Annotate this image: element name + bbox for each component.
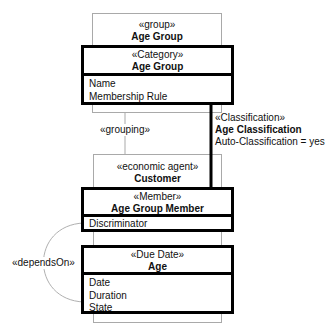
due-date-box[interactable]: «Due Date» Age Date Duration State bbox=[81, 245, 234, 314]
due-date-attributes: Date Duration State bbox=[89, 277, 127, 315]
attribute-name: Name bbox=[89, 78, 167, 91]
depends-on-label: «dependsOn» bbox=[12, 257, 75, 269]
attribute-duration: Duration bbox=[89, 290, 127, 303]
attribute-date: Date bbox=[89, 277, 127, 290]
classification-name: Age Classification bbox=[215, 124, 302, 136]
member-attributes: Discriminator bbox=[89, 218, 147, 231]
classification-property: Auto-Classification = yes bbox=[215, 136, 325, 148]
category-stereotype: «Category» bbox=[84, 49, 231, 61]
member-box[interactable]: «Member» Age Group Member Discriminator bbox=[81, 187, 234, 232]
category-name: Age Group bbox=[84, 61, 231, 73]
category-divider bbox=[84, 73, 231, 76]
member-stereotype: «Member» bbox=[84, 191, 231, 203]
member-divider bbox=[84, 214, 231, 217]
attribute-membership-rule: Membership Rule bbox=[89, 91, 167, 104]
category-attributes: Name Membership Rule bbox=[89, 78, 167, 103]
classification-stereotype: «Classification» bbox=[215, 112, 285, 124]
attribute-state: State bbox=[89, 302, 127, 315]
category-box[interactable]: «Category» Age Group Name Membership Rul… bbox=[81, 45, 234, 105]
grouping-label: «grouping» bbox=[100, 124, 150, 136]
due-date-divider bbox=[84, 272, 231, 275]
attribute-discriminator: Discriminator bbox=[89, 218, 147, 231]
due-date-stereotype: «Due Date» bbox=[84, 249, 231, 261]
